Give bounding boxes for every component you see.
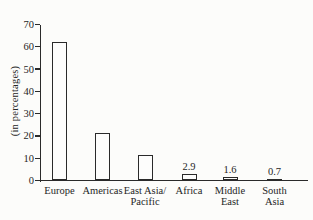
bar-americas (95, 133, 110, 181)
y-axis-line (40, 25, 41, 182)
y-tick-label: 40 (8, 85, 34, 98)
y-axis-tick (35, 46, 40, 47)
y-axis-title: (in percentages) (9, 66, 20, 137)
bar-value-label-south-asia: 0.7 (255, 166, 295, 178)
bar-africa (182, 174, 197, 180)
bar-europe (52, 42, 67, 180)
x-tick-label-line: Asia (243, 196, 307, 208)
bar-chart-figure: (in percentages) 010203040506070EuropeAm… (0, 0, 313, 220)
y-axis-tick (35, 158, 40, 159)
y-tick-label: 50 (8, 63, 34, 76)
y-tick-label: 20 (8, 129, 34, 142)
x-tick-label-south-asia: SouthAsia (243, 185, 307, 208)
x-tick-label-line: South (243, 185, 307, 197)
y-axis-tick (35, 24, 40, 25)
bar-east-asia-pacific (138, 155, 153, 181)
y-tick-label: 60 (8, 40, 34, 53)
bar-value-label-middle-east: 1.6 (210, 164, 250, 176)
y-axis-tick (35, 135, 40, 136)
y-tick-label: 10 (8, 152, 34, 165)
y-axis-tick (35, 68, 40, 69)
x-tick-label-line: Pacific (113, 196, 177, 208)
bar-value-label-africa: 2.9 (169, 161, 209, 173)
y-axis-tick (35, 113, 40, 114)
bar-south-asia (267, 179, 282, 181)
y-axis-tick (35, 91, 40, 92)
y-tick-label: 30 (8, 107, 34, 120)
y-tick-label: 70 (8, 18, 34, 31)
y-axis-tick (35, 180, 40, 181)
bar-middle-east (223, 177, 238, 181)
